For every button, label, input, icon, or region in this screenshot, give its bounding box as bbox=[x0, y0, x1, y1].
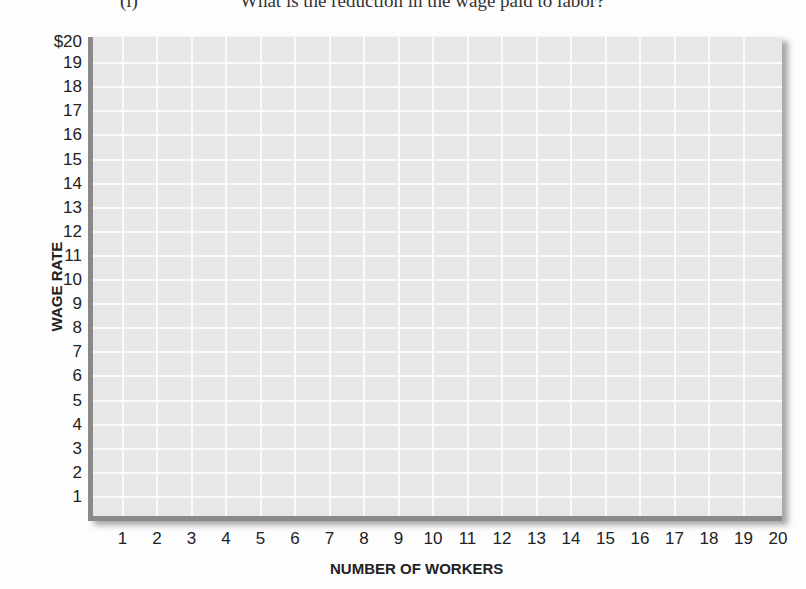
x-tick-label: 7 bbox=[325, 529, 334, 549]
x-tick-label: 14 bbox=[562, 529, 581, 549]
x-tick-label: 5 bbox=[256, 529, 265, 549]
y-tick-label: $20 bbox=[42, 32, 82, 52]
y-tick-label: 2 bbox=[42, 463, 82, 483]
grid-line-horizontal bbox=[93, 62, 782, 64]
grid-line-vertical bbox=[536, 37, 538, 516]
grid-line-horizontal bbox=[93, 159, 782, 161]
y-tick-label: 19 bbox=[42, 53, 82, 73]
x-tick-label: 9 bbox=[394, 529, 403, 549]
grid-line-horizontal bbox=[93, 207, 782, 209]
x-tick-label: 8 bbox=[359, 529, 368, 549]
grid-line-vertical bbox=[363, 37, 365, 516]
grid-line-vertical bbox=[743, 37, 745, 516]
grid-line-vertical bbox=[260, 37, 262, 516]
grid-line-vertical bbox=[674, 37, 676, 516]
grid-line-horizontal bbox=[93, 279, 782, 281]
y-tick-label: 16 bbox=[42, 125, 82, 145]
x-tick-label: 16 bbox=[631, 529, 650, 549]
x-axis-title: NUMBER OF WORKERS bbox=[330, 560, 503, 577]
x-tick-label: 1 bbox=[118, 529, 127, 549]
grid-line-vertical bbox=[432, 37, 434, 516]
y-tick-label: 18 bbox=[42, 77, 82, 97]
y-tick-label: 17 bbox=[42, 101, 82, 121]
y-tick-label: 4 bbox=[42, 415, 82, 435]
grid-line-horizontal bbox=[93, 86, 782, 88]
grid-line-vertical bbox=[467, 37, 469, 516]
y-tick-label: 6 bbox=[42, 366, 82, 386]
x-tick-label: 15 bbox=[596, 529, 615, 549]
y-tick-label: 3 bbox=[42, 439, 82, 459]
grid-line-horizontal bbox=[93, 327, 782, 329]
x-tick-label: 2 bbox=[152, 529, 161, 549]
x-tick-label: 3 bbox=[187, 529, 196, 549]
grid-line-horizontal bbox=[93, 448, 782, 450]
grid-line-vertical bbox=[122, 37, 124, 516]
x-tick-label: 19 bbox=[734, 529, 753, 549]
x-tick-label: 4 bbox=[221, 529, 230, 549]
grid-line-vertical bbox=[639, 37, 641, 516]
x-tick-label: 18 bbox=[700, 529, 719, 549]
grid-line-horizontal bbox=[93, 351, 782, 353]
grid-line-vertical bbox=[570, 37, 572, 516]
grid-line-horizontal bbox=[93, 183, 782, 185]
y-tick-label: 14 bbox=[42, 174, 82, 194]
grid-line-horizontal bbox=[93, 110, 782, 112]
grid-line-vertical bbox=[156, 37, 158, 516]
x-tick-label: 20 bbox=[769, 529, 788, 549]
x-tick-label: 10 bbox=[424, 529, 443, 549]
x-tick-label: 12 bbox=[493, 529, 512, 549]
grid-line-vertical bbox=[398, 37, 400, 516]
grid-line-vertical bbox=[329, 37, 331, 516]
grid-line-horizontal bbox=[93, 400, 782, 402]
y-tick-label: 5 bbox=[42, 391, 82, 411]
grid-line-horizontal bbox=[93, 424, 782, 426]
x-tick-label: 11 bbox=[459, 529, 477, 549]
grid-line-vertical bbox=[605, 37, 607, 516]
x-tick-label: 6 bbox=[290, 529, 299, 549]
y-tick-label: 13 bbox=[42, 198, 82, 218]
x-tick-label: 17 bbox=[665, 529, 684, 549]
x-tick-label: 13 bbox=[527, 529, 546, 549]
grid-line-vertical bbox=[294, 37, 296, 516]
grid-line-vertical bbox=[501, 37, 503, 516]
plot-area bbox=[88, 37, 782, 521]
y-tick-label: 1 bbox=[42, 487, 82, 507]
grid-line-horizontal bbox=[93, 134, 782, 136]
grid-line-vertical bbox=[225, 37, 227, 516]
grid-line-horizontal bbox=[93, 472, 782, 474]
y-tick-label: 15 bbox=[42, 150, 82, 170]
grid-line-vertical bbox=[191, 37, 193, 516]
grid-line-horizontal bbox=[93, 303, 782, 305]
question-body: What is the reduction in the wage paid t… bbox=[240, 0, 605, 12]
grid-line-horizontal bbox=[93, 231, 782, 233]
grid-line-vertical bbox=[708, 37, 710, 516]
question-number: (i) bbox=[120, 0, 138, 12]
grid-line-horizontal bbox=[93, 255, 782, 257]
grid-line-horizontal bbox=[93, 375, 782, 377]
grid-line-horizontal bbox=[93, 496, 782, 498]
y-axis-title: WAGE RATE bbox=[48, 227, 65, 347]
